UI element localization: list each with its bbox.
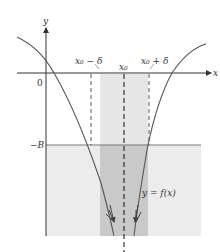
curve-label: y = f(x) [141,188,176,198]
y-axis-label: y [42,16,49,26]
x0-plus-delta-label: x₀ + δ [141,56,168,66]
infinite-limit-diagram: y x 0 x₀ − δ x₀ x₀ + δ −B y = f(x) [0,0,220,252]
neg-B-label: −B [30,140,45,150]
x0-minus-delta-label: x₀ − δ [75,56,102,66]
origin-label: 0 [37,78,43,88]
x-axis-label: x [213,68,218,78]
x0-label: x₀ [119,62,128,72]
